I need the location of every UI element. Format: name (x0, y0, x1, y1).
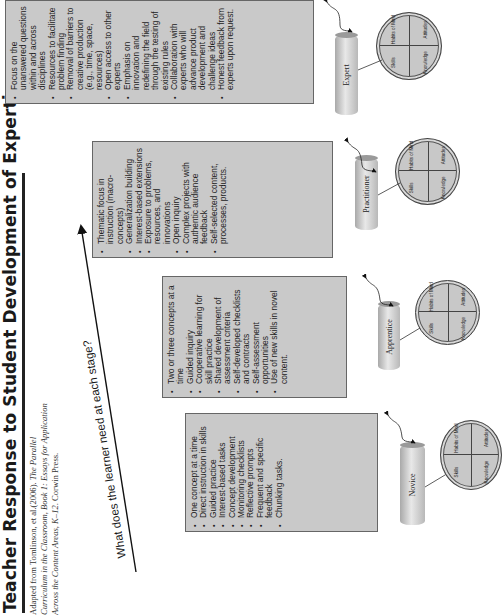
apprentice-stage-label: Apprentice (378, 304, 400, 370)
apprentice-competency-circle: Skills Habits of Mind Knowledge Attitude… (415, 280, 480, 345)
citation-line2-italic: Curriculum in the Classroom, Book 1: Ess… (39, 403, 49, 615)
expert-item: Honest feedback from experts upon reques… (217, 5, 236, 100)
expert-item: Open access to other experts (104, 5, 123, 100)
circle-attitudes-label: Attitudes (428, 139, 460, 172)
expert-item: Resources to facilitate problem finding (48, 5, 67, 100)
novice-item: Frequent and specific feedback (256, 418, 275, 528)
apprentice-item: Use of new skills in novel content. (270, 281, 289, 394)
practitioner-label-text: Practitioner (362, 175, 371, 212)
circle-skills-label: Skills (441, 455, 471, 489)
circle-attitudes-label: Attitudes (409, 13, 441, 46)
apprentice-item: Shared development of assessment criteri… (214, 281, 233, 394)
expert-item: Removal of barriers to creative producti… (66, 5, 104, 100)
novice-competency-circle: Skills Habits of Mind Knowledge Attitude… (440, 420, 502, 490)
circle-skills-label: Skills (377, 46, 409, 79)
expert-item: Focus on the unanswered questions within… (10, 5, 48, 100)
guiding-question: What does the learner need at each stage… (63, 231, 128, 559)
circle-attitudes-label: Attitudes (448, 281, 480, 313)
citation: Adapted from Tomlinson, et al.(2006). Th… (28, 315, 61, 615)
expert-supports-box: Focus on the unanswered questions within… (5, 0, 314, 104)
practitioner-competency-circle: Skills Habits of Mind Knowledge Attitude… (395, 138, 460, 205)
apprentice-item: Two or three concepts at a time (167, 281, 186, 394)
expert-competency-circle: Skills Habits of Mind Knowledge Attitude… (376, 12, 442, 80)
novice-squiggle-arrow (388, 415, 415, 443)
practitioner-supports-box: Thematic focus in instruction (macro-con… (92, 141, 333, 258)
expert-squiggle-arrow (327, 2, 352, 32)
expert-stage-label: Expert (335, 35, 358, 115)
circle-habits-label: Habits of Mind (416, 281, 448, 313)
citation-line1-prefix: Adapted from Tomlinson, et al.(2006). (28, 480, 38, 615)
apprentice-item: Cooperative learning for skill practice (195, 281, 214, 394)
apprentice-item: Self-developed checklists and contracts (233, 281, 252, 394)
novice-label-text: Novice (408, 473, 417, 496)
circle-attitudes-label: Attitudes (471, 421, 501, 455)
practitioner-item: Self-selected content, processes, produc… (210, 146, 229, 254)
circle-skills-label: Skills (396, 172, 428, 205)
circle-knowledge-label: Knowledge (471, 455, 501, 489)
novice-item: Chunking tasks. (275, 418, 284, 528)
circle-skills-label: Skills (416, 313, 448, 345)
circle-habits-label: Habits of Mind (377, 13, 409, 46)
novice-stage-label: Novice (400, 445, 425, 525)
circle-knowledge-label: Knowledge (409, 46, 441, 79)
practitioner-stage-label: Practitioner (355, 158, 378, 230)
circle-habits-label: Habits of Mind (396, 139, 428, 172)
apprentice-label-text: Apprentice (385, 319, 394, 355)
practitioner-item: Thematic focus in instruction (macro-con… (97, 146, 125, 254)
apprentice-supports-box: Two or three concepts at a time Guided i… (162, 276, 347, 398)
circle-knowledge-label: Knowledge (448, 313, 480, 345)
practitioner-item: Complex projects with authentic audience… (182, 146, 210, 254)
circle-knowledge-label: Knowledge (428, 172, 460, 205)
apprentice-item: Self-assessment opportunities (252, 281, 271, 394)
novice-supports-box: One concept at a time Direct instruction… (185, 413, 378, 532)
citation-line3-italic: Across the Content Areas, K–12 (50, 505, 60, 615)
citation-line3-suffix: . Corwin Press. (50, 453, 60, 506)
expert-label-text: Expert (342, 64, 351, 85)
expert-item: Emphasis on innovation and redefining th… (123, 5, 170, 100)
page-title: Teacher Response to Student Development … (0, 173, 25, 613)
citation-line1-italic: The Parallel (28, 437, 38, 480)
rotated-page: Teacher Response to Student Development … (0, 0, 503, 615)
circle-habits-label: Habits of Mind (441, 421, 471, 455)
practitioner-item: Exposure to problems, resources, and inn… (144, 146, 172, 254)
expert-item: Collaboration with experts who will adva… (170, 5, 217, 100)
